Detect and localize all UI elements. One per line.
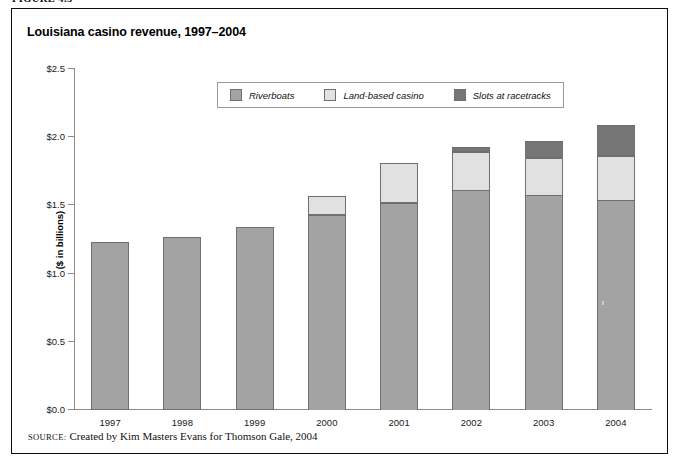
bar-stack: [163, 237, 201, 410]
chart-legend: RiverboatsLand-based casinoSlots at race…: [217, 82, 564, 108]
bar-segment[interactable]: [380, 203, 418, 410]
bar-segment[interactable]: [308, 196, 346, 215]
legend-item[interactable]: Riverboats: [230, 89, 294, 101]
figure-frame: Louisiana casino revenue, 1997–2004 ($ i…: [11, 8, 668, 454]
bar-segment[interactable]: [452, 190, 490, 410]
y-axis-tick-label: $0.0: [47, 404, 66, 415]
bar-segment[interactable]: [380, 163, 418, 203]
y-axis-title: ($ in billions): [54, 210, 65, 269]
bar-segment[interactable]: [236, 227, 274, 410]
y-axis-tick: [68, 409, 74, 410]
y-axis-tick: [68, 136, 74, 137]
y-axis-line: [74, 68, 75, 410]
bar-stack: [380, 163, 418, 410]
x-axis-tick-label: 1999: [219, 417, 291, 428]
bar-stack: [452, 147, 490, 410]
y-axis-tick: [68, 68, 74, 69]
legend-swatch-slots: [454, 89, 466, 101]
chart-plot-area: ($ in billions) $0.0$0.5$1.0$1.5$2.0$2.5…: [74, 68, 652, 411]
bar-segment[interactable]: [91, 242, 129, 410]
legend-swatch-riverboats: [230, 89, 242, 101]
x-axis-tick-label: 2000: [291, 417, 363, 428]
bar-segment[interactable]: [525, 141, 563, 157]
bar-stack: [525, 141, 563, 410]
x-axis-tick-label: 1998: [146, 417, 218, 428]
legend-item[interactable]: Land-based casino: [324, 89, 423, 101]
y-axis-tick-label: $1.5: [47, 199, 66, 210]
scan-artifact-speck: [602, 301, 604, 305]
bar-segment[interactable]: [597, 125, 635, 156]
chart-title: Louisiana casino revenue, 1997–2004: [27, 25, 246, 39]
bar-stack: [236, 227, 274, 410]
legend-label: Land-based casino: [343, 90, 423, 101]
bar-segment[interactable]: [308, 215, 346, 410]
x-axis-tick-label: 2001: [363, 417, 435, 428]
bar-segment[interactable]: [525, 195, 563, 411]
y-axis-tick: [68, 341, 74, 342]
bar-stack: [91, 242, 129, 410]
x-axis-tick-label: 2003: [508, 417, 580, 428]
y-axis-tick: [68, 204, 74, 205]
source-note-label: SOURCE:: [28, 432, 66, 442]
bar-stack: [597, 125, 635, 410]
y-axis-tick: [68, 273, 74, 274]
bar-segment[interactable]: [525, 158, 563, 195]
figure-caption: FIGURE 4.5: [12, 0, 73, 4]
bar-stack: [308, 196, 346, 410]
legend-swatch-land_based: [324, 89, 336, 101]
bar-segment[interactable]: [163, 237, 201, 410]
source-note: SOURCE:Created by Kim Masters Evans for …: [28, 430, 318, 442]
y-axis-tick-label: $0.5: [47, 335, 66, 346]
legend-label: Slots at racetracks: [473, 90, 551, 101]
legend-item[interactable]: Slots at racetracks: [454, 89, 551, 101]
bar-segment[interactable]: [597, 156, 635, 200]
source-note-text: Created by Kim Masters Evans for Thomson…: [69, 430, 317, 442]
x-axis-tick-label: 2004: [580, 417, 652, 428]
legend-label: Riverboats: [249, 90, 294, 101]
y-axis-tick-label: $1.0: [47, 267, 66, 278]
x-axis-line: [74, 409, 652, 410]
bar-segment[interactable]: [452, 152, 490, 190]
x-axis-tick-label: 2002: [435, 417, 507, 428]
y-axis-tick-label: $2.5: [47, 63, 66, 74]
x-axis-tick-label: 1997: [74, 417, 146, 428]
y-axis-tick-label: $2.0: [47, 131, 66, 142]
